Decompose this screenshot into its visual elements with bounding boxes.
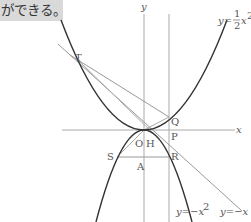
x-axis-label: x xyxy=(236,124,242,135)
point-A-label: A xyxy=(136,161,145,172)
point-H-label: H xyxy=(146,138,155,149)
svg-text:2: 2 xyxy=(203,201,209,212)
lower-parabola-label: y=−x 2 xyxy=(175,201,209,217)
point-O-label: O xyxy=(135,138,143,149)
coordinate-diagram: T Q P O H S A R x y y= 1 2 x 2 y=−x 2 y=… xyxy=(0,0,251,222)
line-label: y=−x xyxy=(219,206,248,217)
svg-text:2: 2 xyxy=(247,10,251,21)
svg-text:y=−x: y=−x xyxy=(175,206,204,217)
line-y-neg-x xyxy=(58,44,242,211)
point-T-label: T xyxy=(75,52,82,63)
svg-text:y=: y= xyxy=(217,15,232,26)
point-R-label: R xyxy=(171,151,179,162)
point-S-label: S xyxy=(107,151,114,162)
svg-text:1: 1 xyxy=(234,8,240,19)
y-axis-label: y xyxy=(140,1,147,12)
svg-text:2: 2 xyxy=(234,20,240,31)
upper-parabola-label: y= 1 2 x 2 xyxy=(217,8,251,31)
point-P-label: P xyxy=(171,131,178,142)
line-TQ xyxy=(70,55,169,117)
point-Q-label: Q xyxy=(171,116,179,127)
